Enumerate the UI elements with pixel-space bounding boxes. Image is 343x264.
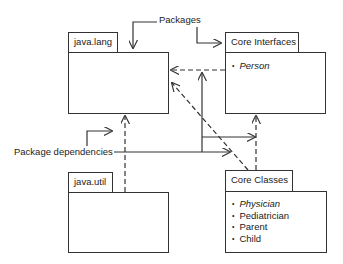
list-item: Parent	[232, 221, 326, 233]
package-tab-core-classes[interactable]: Core Classes	[225, 170, 293, 192]
package-dependencies-label: Package dependencies	[13, 146, 114, 157]
list-item: Physician	[232, 198, 326, 210]
package-tab-java-util[interactable]: java.util	[68, 172, 113, 193]
packages-label: Packages	[158, 14, 202, 25]
core-interfaces-list: Person	[226, 53, 325, 72]
list-item: Person	[232, 60, 325, 72]
list-item: Child	[232, 233, 326, 245]
packages-callout-arrow-java-lang	[133, 22, 157, 48]
package-body-java-lang[interactable]	[68, 52, 169, 114]
pointer-small-arrow	[87, 131, 112, 146]
package-body-core-classes[interactable]: Physician Pediatrician Parent Child	[225, 191, 327, 253]
packages-callout-arrow-core-interfaces	[197, 27, 221, 43]
package-tab-core-interfaces[interactable]: Core Interfaces	[225, 32, 299, 53]
package-body-core-interfaces[interactable]: Person	[225, 52, 326, 114]
package-body-java-util[interactable]	[68, 192, 169, 253]
list-item: Pediatrician	[232, 210, 326, 222]
package-tab-java-lang[interactable]: java.lang	[68, 32, 118, 53]
core-classes-list: Physician Pediatrician Parent Child	[226, 192, 326, 244]
